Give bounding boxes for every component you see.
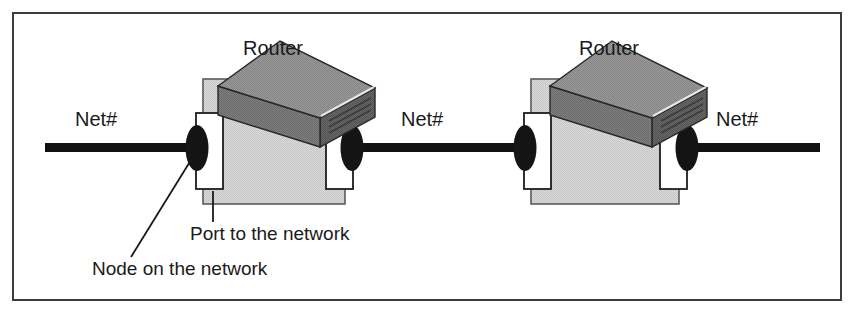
callout-port-label: Port to the network — [190, 223, 350, 244]
figure-border — [13, 13, 841, 300]
network-segment-middle — [352, 143, 532, 152]
network-backbone — [45, 143, 820, 152]
network-segment-left — [45, 143, 196, 152]
net-label-right: Net# — [716, 108, 759, 130]
network-diagram-figure: Net# Net# Net# Router Router Port to the… — [0, 0, 854, 315]
router-right-node-left[interactable] — [514, 125, 537, 171]
router-right-label: Router — [579, 37, 639, 59]
diagram-canvas: Net# Net# Net# Router Router Port to the… — [0, 0, 854, 315]
router-left-label: Router — [243, 37, 303, 59]
net-label-left: Net# — [75, 108, 118, 130]
net-label-middle: Net# — [401, 108, 444, 130]
callout-node-label: Node on the network — [92, 258, 268, 279]
network-segment-right — [688, 143, 820, 152]
